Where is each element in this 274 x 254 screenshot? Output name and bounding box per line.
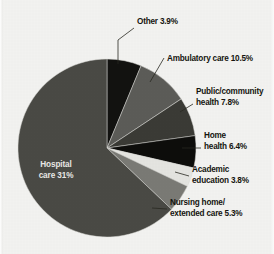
slice-label-line: Academic: [192, 165, 230, 174]
slice-label-line: health 6.4%: [204, 142, 248, 151]
slice-label-hospital-care: Hospitalcare 31%: [39, 160, 75, 180]
slice-label-line: education 3.8%: [192, 176, 250, 185]
slice-label-other: Other 3.9%: [137, 17, 179, 26]
slice-label-line: extended care 5.3%: [170, 209, 243, 218]
slice-label-public-community-health: Public/communityhealth 7.8%: [196, 87, 264, 107]
slice-label-line: health 7.8%: [196, 98, 240, 107]
slice-label-ambulatory-care: Ambulatory care 10.5%: [167, 54, 254, 63]
slice-label-academic-education: Academiceducation 3.8%: [192, 165, 250, 185]
leader-line-other: [118, 28, 134, 64]
slice-label-line: Nursing home/: [170, 198, 226, 207]
slice-label-line: Other 3.9%: [137, 17, 179, 26]
chart-page: Other 3.9%Ambulatory care 10.5%Public/co…: [0, 0, 274, 254]
slice-label-home-health: Homehealth 6.4%: [204, 131, 248, 151]
slice-label-line: Home: [204, 131, 227, 140]
slice-label-line: Hospital: [40, 160, 72, 169]
pie-chart: Other 3.9%Ambulatory care 10.5%Public/co…: [0, 0, 274, 254]
slice-label-nursing-home-extended-care: Nursing home/extended care 5.3%: [170, 198, 243, 218]
slice-label-line: Public/community: [196, 87, 264, 96]
slice-label-line: care 31%: [39, 171, 75, 180]
slice-label-line: Ambulatory care 10.5%: [167, 54, 254, 63]
